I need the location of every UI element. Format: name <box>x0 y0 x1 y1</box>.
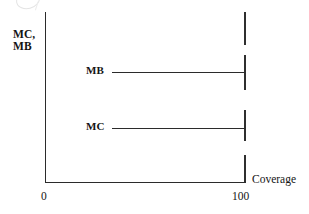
mc-curve-label: MC <box>86 121 105 133</box>
mb-curve-line <box>112 72 245 73</box>
coverage-100-rail-segment-4 <box>244 155 246 182</box>
coverage-100-rail-segment-1 <box>244 12 246 45</box>
mc-curve-line <box>112 128 245 129</box>
x-tick-label-100: 100 <box>232 190 249 202</box>
y-axis-label: MC, MB <box>13 28 35 53</box>
x-axis-line <box>45 182 246 184</box>
mc-mb-coverage-figure: MC, MB MB MC Coverage 0 100 <box>0 0 309 214</box>
x-tick-label-0: 0 <box>41 190 47 202</box>
x-axis-label: Coverage <box>252 173 296 185</box>
mb-curve-label: MB <box>86 65 104 77</box>
y-axis-line <box>45 12 47 183</box>
coverage-100-rail-segment-3 <box>244 110 246 141</box>
